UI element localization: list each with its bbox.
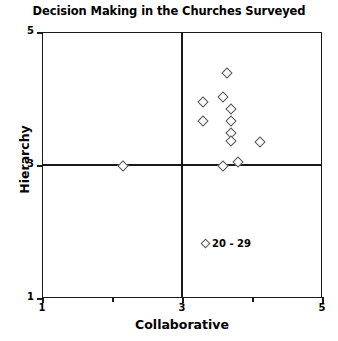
plot-area bbox=[42, 32, 322, 298]
y-axis-title: Hierarchy bbox=[17, 80, 32, 240]
scatter-chart-figure: Decision Making in the Churches Surveyed… bbox=[0, 0, 338, 341]
data-point-marker bbox=[217, 160, 228, 171]
data-point-marker bbox=[198, 115, 209, 126]
y-axis-tick-label: 5 bbox=[14, 25, 34, 36]
x-axis-minor-tick bbox=[252, 297, 254, 302]
data-point-marker bbox=[117, 160, 128, 171]
y-axis-tick bbox=[37, 165, 43, 167]
legend: 20 - 29 bbox=[202, 238, 251, 249]
data-point-marker bbox=[226, 136, 237, 147]
data-point-marker bbox=[254, 136, 265, 147]
y-axis-tick-label: 1 bbox=[14, 291, 34, 302]
data-point-marker bbox=[226, 115, 237, 126]
quadrant-horizontal-line bbox=[43, 164, 321, 166]
legend-label: 20 - 29 bbox=[212, 238, 251, 249]
x-axis-minor-tick bbox=[112, 297, 114, 302]
data-point-marker bbox=[217, 91, 228, 102]
x-axis-tick-label: 1 bbox=[32, 302, 52, 313]
page-title: Decision Making in the Churches Surveyed bbox=[0, 4, 338, 18]
data-point-marker bbox=[221, 67, 232, 78]
y-axis-tick bbox=[37, 298, 43, 300]
x-axis-tick-label: 5 bbox=[312, 302, 332, 313]
x-axis-title: Collaborative bbox=[42, 317, 322, 332]
x-axis-tick-label: 3 bbox=[172, 302, 192, 313]
data-point-marker bbox=[226, 104, 237, 115]
data-point-marker bbox=[198, 96, 209, 107]
y-axis-tick bbox=[37, 32, 43, 34]
diamond-marker-icon bbox=[201, 239, 211, 249]
